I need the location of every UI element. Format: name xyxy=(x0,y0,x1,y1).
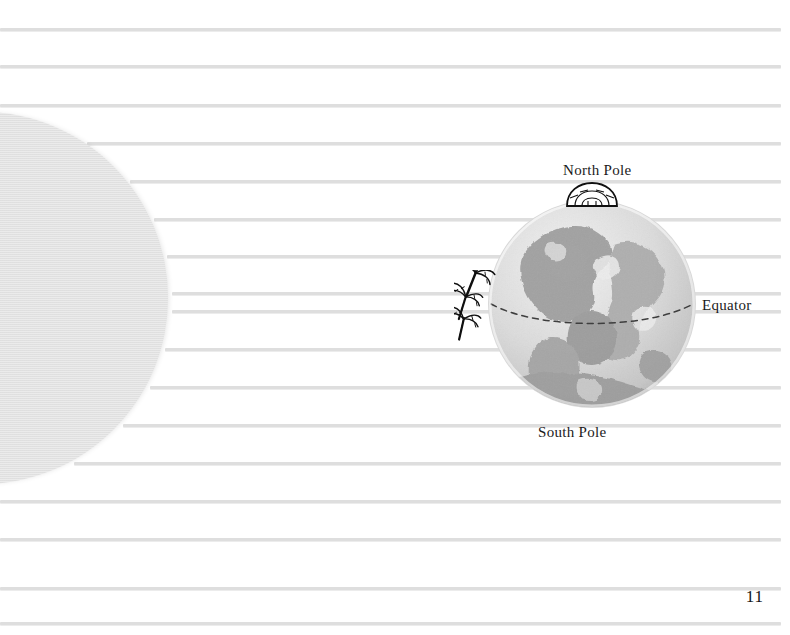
globe-sphere xyxy=(488,200,696,408)
ruled-line xyxy=(0,104,781,107)
ruled-line xyxy=(74,462,781,465)
earth-globe-illustration xyxy=(488,200,696,408)
page-number: 11 xyxy=(746,587,764,607)
ruled-line xyxy=(0,500,781,503)
ruled-line xyxy=(0,65,781,68)
facing-page-disc xyxy=(0,112,168,484)
ruled-line xyxy=(0,622,781,625)
igloo-icon xyxy=(564,182,620,208)
ruled-line xyxy=(0,587,781,590)
ruled-line xyxy=(0,538,781,541)
globe-continents-artwork xyxy=(488,200,696,408)
label-south-pole: South Pole xyxy=(538,424,606,441)
ruled-line xyxy=(130,180,781,183)
ruled-line xyxy=(123,424,781,427)
label-equator: Equator xyxy=(702,297,752,314)
palm-tree-icon xyxy=(454,270,512,346)
ruled-line xyxy=(87,142,781,145)
notebook-page: North Pole South Pole Equator 11 xyxy=(0,0,790,635)
ruled-line xyxy=(0,28,781,31)
label-north-pole: North Pole xyxy=(563,162,631,179)
